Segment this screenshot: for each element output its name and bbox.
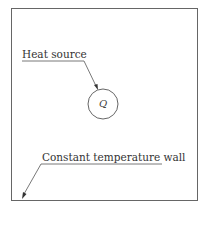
constant-temperature-wall-label: Constant temperature wall (42, 152, 185, 163)
heat-source-symbol: Q (99, 99, 107, 109)
heat-source-arrowhead-icon (94, 84, 98, 90)
heat-source-label: Heat source (22, 49, 87, 60)
wall-leader-line (24, 164, 41, 194)
wall-arrowhead-icon (22, 192, 27, 199)
heat-source-leader-line (84, 61, 96, 86)
